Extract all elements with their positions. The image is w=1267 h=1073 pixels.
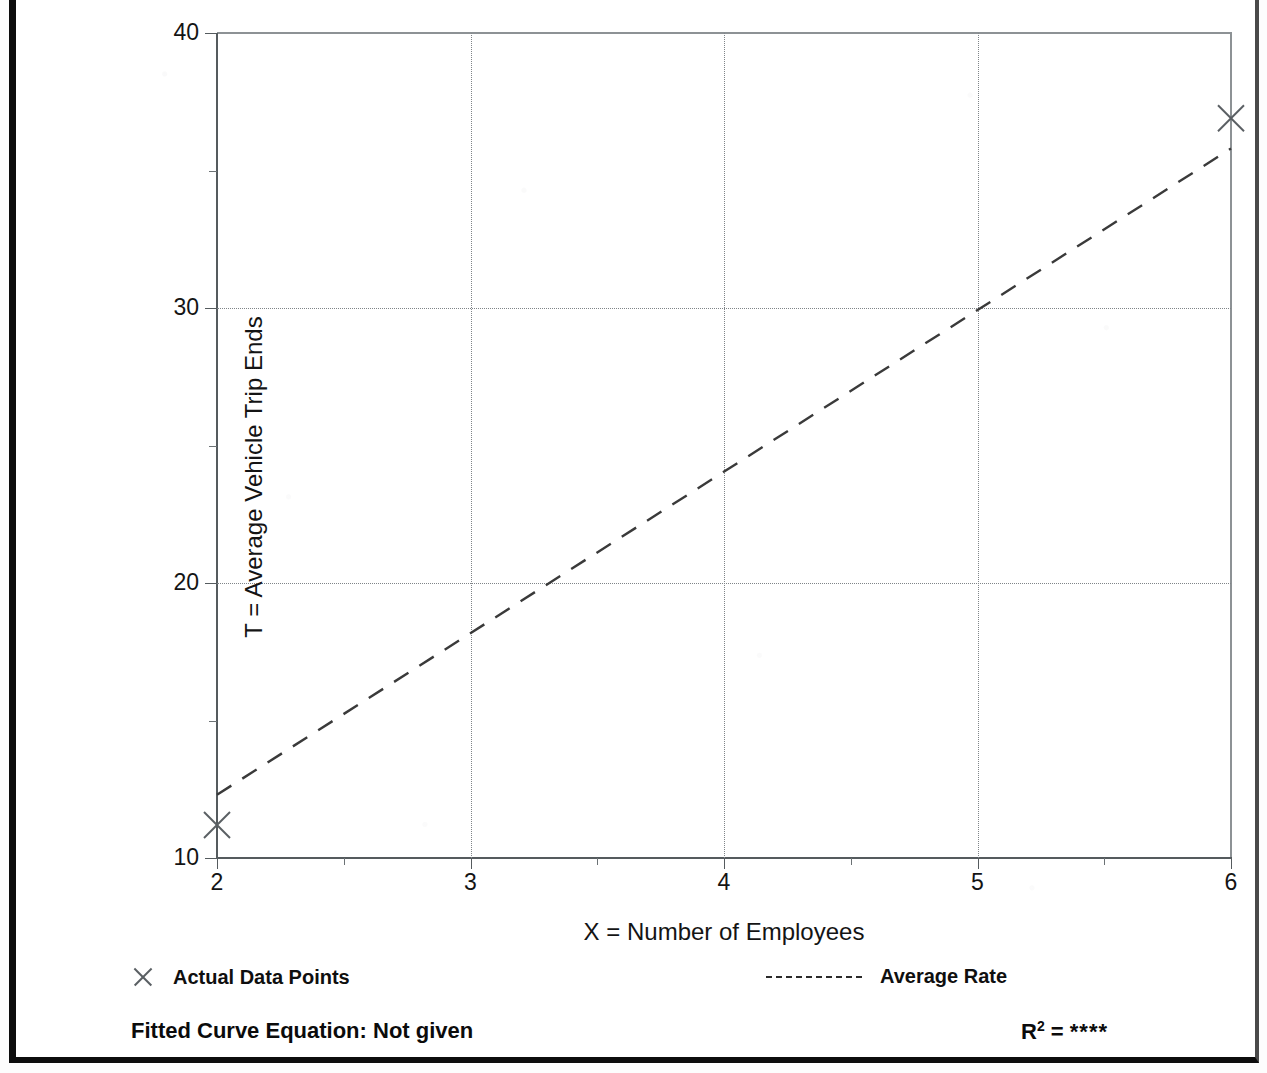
r-squared-stars: **** xyxy=(1070,1019,1108,1044)
scanned-page: 10203040 23456 T = Average Vehicle Trip … xyxy=(0,0,1267,1073)
legend-label-actual-data-points: Actual Data Points xyxy=(173,966,350,989)
r-squared-value: R2 = **** xyxy=(1021,1018,1108,1045)
x-tick-minor xyxy=(597,858,598,865)
x-tick-label: 4 xyxy=(694,871,754,894)
x-tick-minor xyxy=(1104,858,1105,865)
x-tick-major xyxy=(1231,858,1232,869)
y-axis-title: T = Average Vehicle Trip Ends xyxy=(240,127,268,827)
page-frame: 10203040 23456 T = Average Vehicle Trip … xyxy=(9,0,1259,1063)
legend-label-average-rate: Average Rate xyxy=(880,965,1007,988)
legend-item-average-rate: Average Rate xyxy=(766,965,1007,988)
x-tick-minor xyxy=(851,858,852,865)
x-tick-label: 6 xyxy=(1201,871,1261,894)
y-tick-label: 40 xyxy=(129,21,199,44)
fitted-curve-equation: Fitted Curve Equation: Not given xyxy=(131,1018,473,1044)
y-tick-minor xyxy=(209,721,217,722)
x-tick-major xyxy=(217,858,218,869)
chart-footer: Fitted Curve Equation: Not given R2 = **… xyxy=(116,1018,1216,1058)
r-squared-exponent: 2 xyxy=(1037,1018,1045,1034)
x-marker-icon xyxy=(131,965,155,989)
y-tick-minor xyxy=(209,171,217,172)
y-tick-major xyxy=(205,583,217,584)
x-tick-label: 3 xyxy=(441,871,501,894)
y-tick-label: 20 xyxy=(129,571,199,594)
x-tick-major xyxy=(724,858,725,869)
x-tick-major xyxy=(978,858,979,869)
x-axis-title: X = Number of Employees xyxy=(217,918,1231,946)
r-squared-prefix: R xyxy=(1021,1019,1037,1044)
plot-area: T = Average Vehicle Trip Ends xyxy=(217,33,1231,858)
y-tick-major xyxy=(205,858,217,859)
y-tick-minor xyxy=(209,446,217,447)
dashed-line-icon xyxy=(766,976,862,978)
y-tick-major xyxy=(205,33,217,34)
x-tick-major xyxy=(471,858,472,869)
x-tick-label: 5 xyxy=(948,871,1008,894)
legend-item-actual-data-points: Actual Data Points xyxy=(131,965,350,989)
y-tick-major xyxy=(205,308,217,309)
chart-legend: Actual Data Points Average Rate xyxy=(116,963,1216,1003)
y-tick-label: 30 xyxy=(129,296,199,319)
y-tick-label: 10 xyxy=(129,846,199,869)
x-tick-label: 2 xyxy=(187,871,247,894)
r-squared-equals: = xyxy=(1045,1019,1070,1044)
x-tick-minor xyxy=(344,858,345,865)
